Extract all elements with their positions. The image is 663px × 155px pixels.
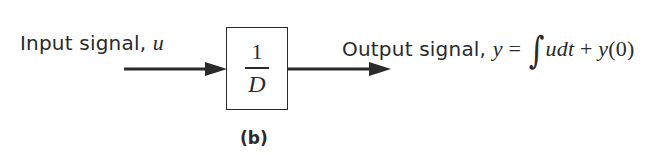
integrator-block-diagram: Input signal, u 1 D Output signal, y = ∫…	[0, 0, 663, 155]
input-arrow	[124, 62, 227, 76]
integral-sign-icon: ∫	[529, 28, 545, 72]
output-label-text: Output signal,	[342, 37, 493, 61]
integrand: udt	[546, 36, 575, 61]
output-symbol-y: y	[493, 36, 503, 61]
fraction-numerator: 1	[252, 41, 263, 63]
fraction-one-over-d: 1 D	[227, 28, 287, 109]
input-signal-label: Input signal, u	[20, 30, 164, 56]
initial-condition-arg: (0)	[608, 36, 634, 61]
signal-arrows	[0, 0, 663, 155]
fraction-bar	[245, 67, 269, 68]
output-arrow	[287, 62, 391, 76]
input-symbol-u: u	[153, 30, 164, 55]
output-signal-label: Output signal, y = ∫udt + y(0)	[342, 28, 635, 63]
transfer-function-block: 1 D	[226, 27, 288, 110]
initial-condition-symbol: y	[598, 36, 608, 61]
input-label-text: Input signal,	[20, 31, 153, 55]
equals-sign: =	[503, 36, 527, 61]
figure-caption: (b)	[240, 128, 268, 148]
fraction-denominator: D	[248, 72, 265, 96]
plus-sign: +	[574, 36, 598, 61]
